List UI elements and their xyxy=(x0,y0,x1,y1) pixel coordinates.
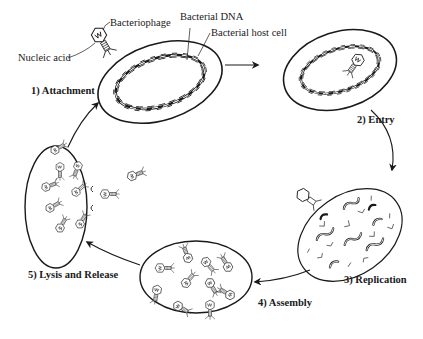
assembly-cell xyxy=(140,241,252,320)
nucleic-acid-label: Nucleic acid xyxy=(18,52,72,63)
lysis-cell xyxy=(25,139,91,268)
empty-phage-icon xyxy=(294,186,322,211)
entry-cell xyxy=(273,16,407,124)
lytic-cycle-diagram: Bacteriophage Nucleic acid Bacterial DNA… xyxy=(0,0,423,339)
step-5-label: 5) Lysis and Release xyxy=(28,269,118,281)
bacterial-host-cell-label: Bacterial host cell xyxy=(211,27,287,38)
step-1-label: 1) Attachment xyxy=(31,85,95,97)
step-4-label: 4) Assembly xyxy=(258,297,313,309)
step-3-label: 3) Replication xyxy=(344,274,407,286)
attachment-cell xyxy=(87,26,232,138)
bacteriophage-label: Bacteriophage xyxy=(110,17,171,28)
lysis-rupture xyxy=(91,186,93,211)
released-phage-icon xyxy=(126,166,148,182)
step-2-label: 2) Entry xyxy=(357,114,395,126)
bacterial-dna-label: Bacterial DNA xyxy=(180,11,244,22)
released-phage-icon xyxy=(100,189,120,199)
